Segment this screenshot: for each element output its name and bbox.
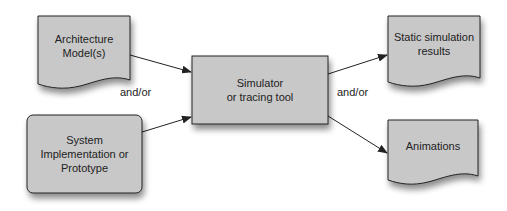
- system-label-line1: System: [66, 133, 103, 147]
- animations-label-line1: Animations: [406, 139, 460, 153]
- simulator-label-line1: Simulator: [237, 76, 283, 90]
- edge-simulator-static: [328, 55, 387, 74]
- system-label-line2: Implementation or: [40, 147, 128, 161]
- static-results-label-line1: Static simulation: [394, 30, 474, 44]
- simulator-node-label: Simulator or tracing tool: [192, 56, 328, 124]
- static-results-node-label: Static simulation results: [388, 22, 480, 66]
- edge-system-simulator: [142, 117, 191, 132]
- architecture-label-line2: Model(s): [63, 46, 106, 60]
- architecture-label-line1: Architecture: [55, 32, 114, 46]
- static-results-label-line2: results: [418, 44, 450, 58]
- edge-simulator-animations: [328, 116, 387, 153]
- system-label-line3: Prototype: [61, 161, 108, 175]
- edge-label-right: and/or: [337, 86, 368, 98]
- architecture-node-label: Architecture Model(s): [38, 24, 130, 68]
- system-node-label: System Implementation or Prototype: [27, 115, 142, 193]
- animations-node-label: Animations: [388, 124, 478, 168]
- simulator-label-line2: or tracing tool: [227, 90, 294, 104]
- edge-architecture-simulator: [130, 55, 191, 72]
- edge-label-left: and/or: [120, 86, 151, 98]
